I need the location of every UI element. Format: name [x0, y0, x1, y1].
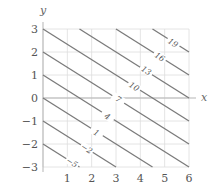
y-tick-label: −3	[22, 161, 38, 174]
x-tick-label: 2	[88, 172, 95, 185]
x-tick-label: 1	[64, 172, 71, 185]
x-tick-label: 5	[161, 172, 168, 185]
y-tick-label: 2	[31, 46, 38, 59]
y-tick-label: 1	[31, 69, 38, 82]
y-tick-label: −1	[22, 115, 38, 128]
y-tick-label: 0	[31, 92, 38, 105]
y-tick-label: −2	[22, 138, 38, 151]
y-tick-label: 3	[31, 23, 38, 36]
x-axis-label: x	[201, 91, 208, 104]
y-axis-label: y	[39, 4, 47, 17]
x-tick-label: 6	[186, 172, 193, 185]
x-tick-label: 3	[113, 172, 120, 185]
x-tick-label: 4	[137, 172, 144, 185]
contour-plot: −5−214710131619 123456−3−2−10123 x y	[0, 0, 217, 193]
